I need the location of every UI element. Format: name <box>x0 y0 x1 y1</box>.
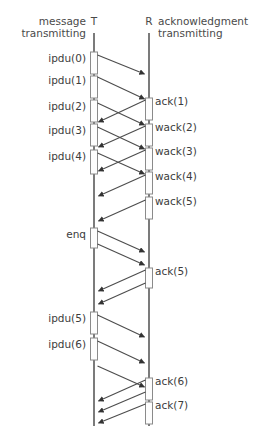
header-ack-line2: transmitting <box>158 27 223 39</box>
actor-label-r: R <box>145 15 152 27</box>
message-arrow <box>98 315 145 337</box>
message-label-left: ipdu(0) <box>48 52 86 64</box>
message-arrow <box>99 100 146 122</box>
message-arrow <box>99 380 146 401</box>
message-arrow <box>99 392 146 412</box>
message-label-right: ack(6) <box>155 375 188 387</box>
message-arrow <box>98 153 145 174</box>
message-arrow <box>99 150 146 171</box>
header-ack-line1: acknowledgment <box>158 15 248 27</box>
activation-bars <box>91 52 153 424</box>
message-arrow <box>98 341 145 363</box>
message-label-right: wack(3) <box>155 145 197 157</box>
message-label-right: wack(5) <box>155 195 197 207</box>
message-label-left: ipdu(3) <box>48 124 86 136</box>
message-arrow <box>99 270 146 291</box>
header-message-line1: message <box>39 15 86 27</box>
message-label-left: ipdu(4) <box>48 150 86 162</box>
message-arrow <box>99 175 146 196</box>
activation-bar-t <box>91 52 98 74</box>
message-labels-left: ipdu(0)ipdu(1)ipdu(2)ipdu(3)ipdu(4)enqip… <box>48 52 86 350</box>
message-label-right: wack(4) <box>155 170 197 182</box>
activation-bar-r <box>146 148 153 170</box>
sequence-diagram: message transmitting acknowledgment tran… <box>0 0 273 442</box>
message-label-left: ipdu(6) <box>48 338 86 350</box>
message-arrow <box>99 404 146 423</box>
activation-bar-r <box>146 98 153 120</box>
activation-bar-r <box>146 197 153 219</box>
activation-bar-r <box>146 124 153 146</box>
message-arrow <box>98 103 145 125</box>
message-label-left: ipdu(2) <box>48 100 86 112</box>
message-label-right: ack(1) <box>155 95 188 107</box>
message-arrow <box>98 244 145 265</box>
message-labels-right: ack(1)wack(2)wack(3)wack(4)wack(5)ack(5)… <box>155 95 197 411</box>
activation-bar-t <box>91 76 98 98</box>
message-arrow <box>99 200 146 221</box>
actor-label-t: T <box>90 15 98 27</box>
message-arrow <box>99 126 146 147</box>
message-arrow <box>98 127 145 149</box>
message-arrow <box>98 77 145 99</box>
activation-bar-r <box>146 402 153 424</box>
message-label-left: enq <box>66 228 86 240</box>
activation-bar-r <box>146 268 153 288</box>
message-label-left: ipdu(1) <box>48 74 86 86</box>
activation-bar-t <box>91 338 98 360</box>
activation-bar-r <box>146 172 153 194</box>
message-arrows <box>98 55 146 423</box>
message-label-right: ack(5) <box>155 265 188 277</box>
message-label-right: ack(7) <box>155 399 188 411</box>
header-message-line2: transmitting <box>21 27 86 39</box>
activation-bar-t <box>91 100 98 122</box>
message-arrow <box>98 55 145 74</box>
sequence-diagram-canvas: message transmitting acknowledgment tran… <box>0 0 273 442</box>
activation-bar-t <box>91 124 98 146</box>
message-arrow <box>99 283 146 304</box>
activation-bar-t <box>91 228 98 248</box>
activation-bar-t <box>91 150 98 174</box>
activation-bar-r <box>146 378 153 400</box>
activation-bar-t <box>91 312 98 334</box>
lifelines <box>94 33 149 426</box>
diagram-headers: message transmitting acknowledgment tran… <box>21 15 248 39</box>
message-label-right: wack(2) <box>155 121 197 133</box>
message-label-left: ipdu(5) <box>48 312 86 324</box>
message-arrow <box>98 231 145 252</box>
